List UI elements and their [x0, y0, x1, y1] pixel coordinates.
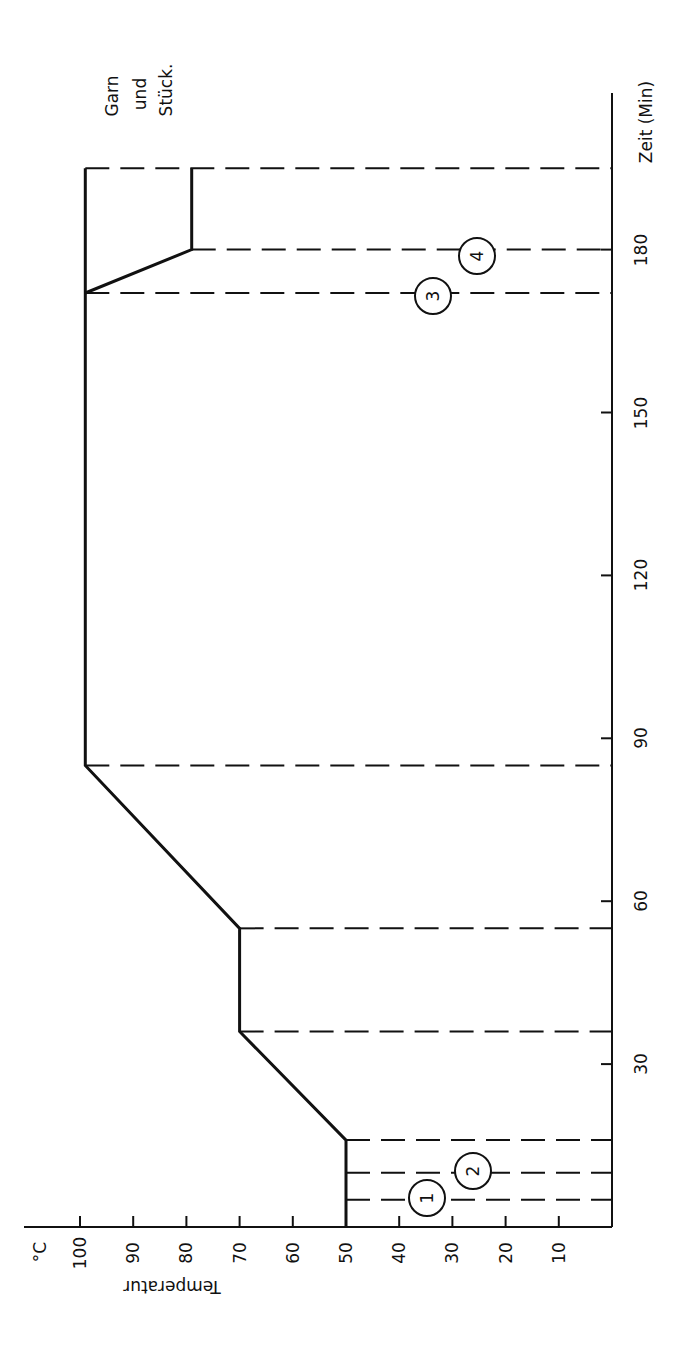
end-label-line-2: und — [132, 78, 149, 110]
marker-3-label: 3 — [425, 291, 442, 302]
time-tick-label: 30 — [633, 1053, 650, 1075]
temperature-tick-label: 90 — [125, 1242, 142, 1264]
temperature-tick-label: 40 — [391, 1242, 408, 1264]
time-tick-label: 60 — [633, 890, 650, 912]
time-tick-label: 120 — [633, 559, 650, 591]
x-axis-title: Zeit (Min) — [638, 81, 655, 163]
axes — [24, 93, 612, 1227]
main-temperature-curve — [85, 168, 346, 1227]
temperature-tick-label: 10 — [550, 1242, 567, 1264]
temperature-tick-label: 30 — [444, 1242, 461, 1264]
marker-circles — [409, 238, 495, 1216]
marker-2-label: 2 — [465, 1166, 482, 1177]
temperature-tick-label: 80 — [178, 1242, 195, 1264]
temperature-tick-label: 100 — [72, 1237, 89, 1269]
phase-marker-lines — [85, 168, 612, 1200]
temperature-tick-label: 20 — [497, 1242, 514, 1264]
temperature-curves — [85, 168, 346, 1227]
end-label-line-1: Garn — [104, 75, 121, 116]
marker-4-label: 4 — [469, 251, 486, 262]
marker-1-label: 1 — [419, 1193, 436, 1204]
time-tick-label: 90 — [633, 727, 650, 749]
y-axis-title: Temperatur — [123, 1278, 221, 1295]
end-label-line-3: Stück. — [158, 64, 175, 117]
temperature-tick-label: 50 — [338, 1242, 355, 1264]
temperature-time-chart — [0, 0, 684, 1352]
temperature-tick-label: 60 — [284, 1242, 301, 1264]
cooling-branch-curve — [85, 168, 191, 293]
time-tick-label: 180 — [633, 233, 650, 265]
temperature-tick-label: 70 — [231, 1242, 248, 1264]
time-tick-label: 150 — [633, 396, 650, 428]
y-unit-label: °C — [32, 1242, 49, 1262]
